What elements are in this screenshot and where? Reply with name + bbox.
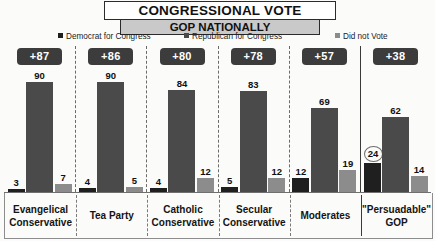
margin-badge: +78 [231, 48, 276, 65]
bar-value: 83 [237, 79, 270, 90]
category-label-line: Conservative [223, 216, 286, 229]
chart-title: CONGRESSIONAL VOTE [104, 1, 336, 20]
category-label-line: Conservative [9, 216, 72, 229]
bar-group: 48412 [146, 70, 217, 193]
legend-label-did-not-vote: Did not Vote [343, 32, 388, 41]
bar-value: 14 [408, 164, 431, 175]
bar [268, 178, 285, 193]
bar [411, 176, 428, 193]
margin-badge: +86 [88, 48, 133, 65]
category-label-line: Conservative [152, 216, 215, 229]
category-label-line: Evangelical [13, 203, 68, 216]
bar-value: 90 [23, 70, 56, 81]
legend-label-republican: Republican for Congress [192, 32, 282, 41]
bar [292, 178, 309, 193]
margin-badge: +87 [17, 48, 62, 65]
category-label-line: Moderates [300, 209, 350, 222]
congressional-vote-chart: CONGRESSIONAL VOTE GOP NATIONALLY Democr… [0, 0, 435, 241]
margin-badge: +57 [302, 48, 347, 65]
bar-value: 5 [123, 175, 146, 186]
category-label: EvangelicalConservative [5, 193, 76, 238]
bar-group: 3907 [4, 70, 75, 193]
bar-value: 4 [76, 176, 99, 187]
bar-value: 5 [218, 175, 241, 186]
bar-value: 84 [165, 78, 198, 89]
legend-item-democrat: Democrat for Congress [58, 31, 151, 42]
bar-value: 7 [52, 172, 75, 183]
legend-square-icon [184, 33, 189, 38]
category-label-line: Tea Party [90, 209, 134, 222]
bar-value: 12 [194, 166, 217, 177]
bar-value: 4 [147, 176, 170, 187]
legend-label-democrat: Democrat for Congress [66, 32, 151, 41]
category-label: "Persuadable"GOP [361, 193, 432, 238]
category-label-line: GOP [385, 216, 407, 229]
bar-group: 246214 [360, 70, 431, 193]
bar [240, 91, 267, 193]
bar-value: 19 [336, 158, 359, 169]
bar [168, 90, 195, 193]
bar-group: 58312 [218, 70, 289, 193]
chart-legend: Democrat for Congress Republican for Con… [0, 31, 435, 43]
bar [197, 178, 214, 193]
bar-value: 12 [265, 166, 288, 177]
bar-value: 3 [5, 177, 28, 188]
legend-item-did-not-vote: Did not Vote [335, 31, 388, 42]
category-label-line: Secular [236, 203, 272, 216]
category-label: CatholicConservative [147, 193, 218, 238]
bar [97, 82, 124, 193]
bar [364, 163, 381, 193]
category-label-line: Catholic [163, 203, 202, 216]
category-label: Moderates [290, 193, 361, 238]
category-label-panel: EvangelicalConservativeTea PartyCatholic… [4, 193, 433, 239]
bar-group: 126919 [289, 70, 360, 193]
margin-badge: +38 [373, 48, 418, 65]
chart-title-block: CONGRESSIONAL VOTE GOP NATIONALLY [104, 1, 336, 35]
bar-value: 12 [289, 166, 312, 177]
bar-value: 90 [94, 70, 127, 81]
category-label: SecularConservative [219, 193, 290, 238]
bar [311, 108, 338, 193]
bar [26, 82, 53, 193]
bar-value-circled: 24 [364, 146, 383, 162]
bar [339, 170, 356, 193]
bar [382, 117, 409, 193]
bar-value: 62 [379, 105, 412, 116]
margin-badge: +80 [160, 48, 205, 65]
legend-square-icon [335, 33, 340, 38]
plot-area: 390749054841258312126919246214 [0, 70, 435, 193]
bar-value: 69 [308, 96, 341, 107]
bar-group: 4905 [75, 70, 146, 193]
category-label: Tea Party [76, 193, 147, 238]
legend-square-icon [58, 33, 63, 38]
legend-item-republican: Republican for Congress [184, 31, 282, 42]
category-label-line: "Persuadable" [362, 203, 431, 216]
